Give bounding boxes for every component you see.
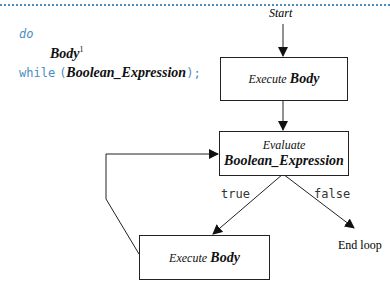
execute-verb: Execute — [249, 72, 287, 86]
false-label: false — [314, 187, 350, 201]
execute-body-box-top: Execute Body — [220, 57, 348, 101]
execute-verb: Execute — [169, 251, 207, 265]
evaluate-box: Evaluate Boolean_Expression — [219, 131, 349, 176]
execute-noun: Body — [290, 71, 320, 86]
end-loop-label: End loop — [338, 238, 382, 253]
true-label: true — [221, 187, 250, 201]
execute-noun: Body — [210, 250, 240, 265]
execute-body-box-bottom: Execute Body — [139, 235, 270, 280]
evaluate-condition: Boolean_Expression — [224, 153, 344, 169]
evaluate-verb: Evaluate — [263, 138, 306, 153]
start-label: Start — [269, 6, 292, 21]
